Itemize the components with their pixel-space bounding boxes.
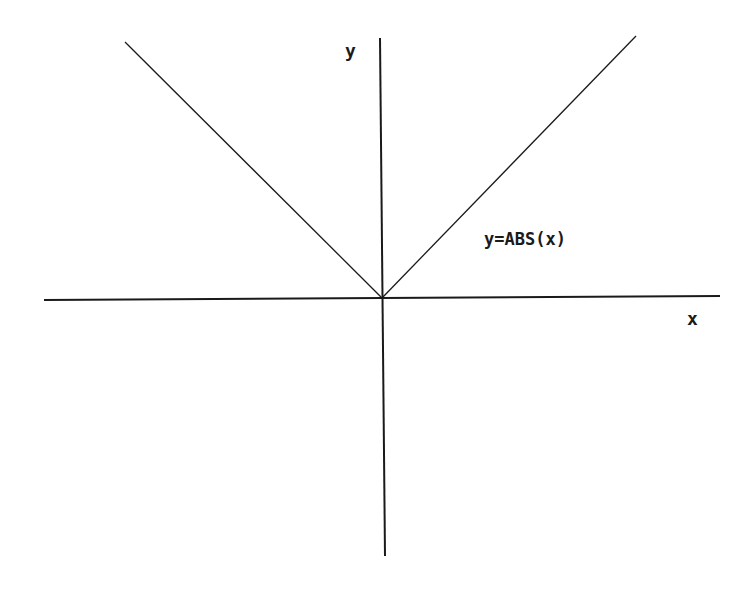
abs-function-plot: y x y=ABS(x) <box>0 0 753 597</box>
y-axis-label: y <box>345 40 356 61</box>
curve-label: y=ABS(x) <box>484 229 566 249</box>
curve-left-branch <box>125 42 382 298</box>
x-axis-label: x <box>687 308 698 329</box>
curve-right-branch <box>382 36 636 298</box>
